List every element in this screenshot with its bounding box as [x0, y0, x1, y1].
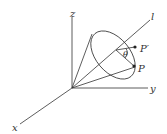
- rotation-axis-l: [72, 20, 150, 88]
- p-prime-label: P′: [139, 43, 150, 54]
- y-label: y: [149, 83, 156, 94]
- cone-base-circle: [82, 23, 144, 88]
- x-axis: [20, 88, 72, 124]
- cone-edge-upper: [72, 34, 92, 88]
- l-label: l: [151, 11, 154, 22]
- diagram-canvas: z y x l θ P′ P: [0, 0, 167, 134]
- z-label: z: [69, 8, 76, 19]
- p-label: P: [137, 63, 145, 74]
- point-p-prime: [133, 45, 136, 48]
- point-p: [132, 64, 135, 67]
- x-label: x: [12, 122, 18, 133]
- theta-label: θ: [123, 50, 128, 59]
- rotation-cone-diagram: z y x l θ P′ P: [0, 0, 167, 134]
